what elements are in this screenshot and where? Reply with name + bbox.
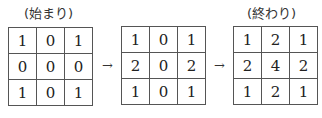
grid-cell: 1 <box>65 80 93 106</box>
start-label: (始まり) <box>24 3 73 22</box>
grid-cell: 2 <box>122 53 150 79</box>
grid-cell: 2 <box>290 53 318 79</box>
grid-cell: 1 <box>65 28 93 54</box>
arrow-icon: → <box>214 58 225 73</box>
start-grid: 1 0 1 0 0 0 1 0 1 <box>8 27 93 106</box>
grid-cell: 1 <box>122 27 150 53</box>
grid-row: 2 0 2 <box>122 53 206 79</box>
grid-cell: 1 <box>178 27 206 53</box>
end-label: (終わり) <box>247 3 296 22</box>
grid-cell: 1 <box>178 79 206 105</box>
grid-cell: 1 <box>234 79 262 105</box>
arrow-icon: → <box>102 58 113 73</box>
grid-row: 1 2 1 <box>234 79 318 105</box>
grid-cell: 0 <box>150 27 178 53</box>
grid-row: 1 0 1 <box>9 28 93 54</box>
grid-row: 2 4 2 <box>234 53 318 79</box>
grid-cell: 1 <box>290 79 318 105</box>
grid-row: 1 2 1 <box>234 27 318 53</box>
grid-cell: 1 <box>122 79 150 105</box>
grid-cell: 1 <box>290 27 318 53</box>
grid-cell: 1 <box>9 80 37 106</box>
grid-cell: 0 <box>37 54 65 80</box>
grid-cell: 2 <box>262 79 290 105</box>
grid-cell: 0 <box>9 54 37 80</box>
grid-cell: 0 <box>65 54 93 80</box>
grid-cell: 1 <box>9 28 37 54</box>
grid-cell: 2 <box>234 53 262 79</box>
middle-grid: 1 0 1 2 0 2 1 0 1 <box>121 26 206 105</box>
grid-cell: 0 <box>37 28 65 54</box>
grid-cell: 2 <box>178 53 206 79</box>
grid-cell: 4 <box>262 53 290 79</box>
grid-row: 0 0 0 <box>9 54 93 80</box>
grid-row: 1 0 1 <box>9 80 93 106</box>
grid-row: 1 0 1 <box>122 27 206 53</box>
grid-cell: 0 <box>37 80 65 106</box>
grid-cell: 1 <box>234 27 262 53</box>
end-grid: 1 2 1 2 4 2 1 2 1 <box>233 26 318 105</box>
grid-cell: 2 <box>262 27 290 53</box>
grid-cell: 0 <box>150 53 178 79</box>
grid-row: 1 0 1 <box>122 79 206 105</box>
grid-cell: 0 <box>150 79 178 105</box>
